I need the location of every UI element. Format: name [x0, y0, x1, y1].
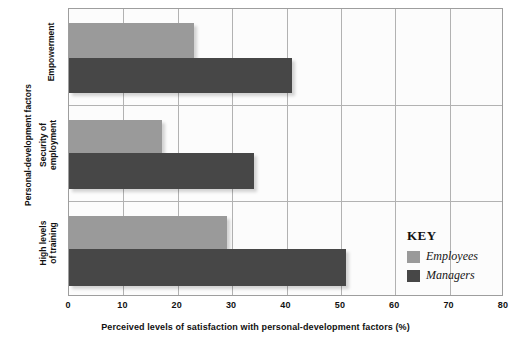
- gridline-category-sep-2: [69, 201, 502, 202]
- bar-managers-security: [69, 153, 254, 189]
- category-label-security-line1: Security of: [38, 90, 48, 200]
- x-tick-40: 40: [280, 300, 290, 310]
- category-label-training-line2: of training: [48, 188, 58, 298]
- x-tick-70: 70: [443, 300, 453, 310]
- x-axis-title: Perceived levels of satisfaction with pe…: [0, 322, 511, 332]
- x-tick-0: 0: [65, 300, 70, 310]
- bar-employees-empowerment: [69, 23, 194, 58]
- x-tick-80: 80: [498, 300, 508, 310]
- bar-managers-empowerment: [69, 58, 292, 93]
- x-tick-30: 30: [226, 300, 236, 310]
- legend: KEY Employees Managers: [407, 228, 478, 287]
- category-label-security-line2: employment: [48, 90, 58, 200]
- legend-title: KEY: [407, 228, 478, 244]
- legend-label-managers: Managers: [426, 268, 475, 283]
- y-axis-title: Personal-development factors: [23, 55, 33, 235]
- gridline-x-60: [395, 9, 396, 295]
- legend-item-managers: Managers: [407, 268, 478, 283]
- bar-employees-security: [69, 120, 162, 153]
- legend-swatch-employees: [407, 251, 420, 263]
- x-tick-20: 20: [172, 300, 182, 310]
- legend-swatch-managers: [407, 270, 420, 282]
- plot-area: KEY Employees Managers: [68, 8, 503, 296]
- legend-item-employees: Employees: [407, 249, 478, 264]
- x-tick-50: 50: [335, 300, 345, 310]
- x-tick-10: 10: [117, 300, 127, 310]
- x-tick-60: 60: [389, 300, 399, 310]
- category-label-training-line1: High levels: [38, 188, 48, 298]
- chart-page: Personal-development factors Empowerment…: [0, 0, 511, 342]
- gridline-category-sep-1: [69, 105, 502, 106]
- bar-employees-training: [69, 216, 227, 249]
- bar-managers-training: [69, 249, 346, 286]
- legend-label-employees: Employees: [426, 249, 478, 264]
